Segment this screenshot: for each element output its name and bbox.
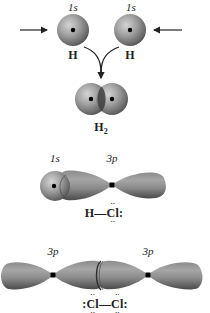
lone-pair-top: ··	[110, 201, 115, 208]
cl2-left-orbital-label: 3p	[48, 245, 59, 257]
nucleus-dot-icon	[52, 184, 56, 188]
orbital-diagram-canvas	[0, 0, 210, 313]
cl-left-nucleus-icon	[51, 273, 56, 278]
lone-pair-top: ··	[90, 292, 95, 299]
lone-pair-right: :	[124, 297, 128, 311]
lone-pair-top: ··	[115, 292, 120, 299]
hcl-cl-3p-right-lobe	[112, 172, 166, 198]
h-right-atom-label: H	[125, 48, 134, 63]
cl2-right-inner-lobe	[98, 261, 149, 290]
h2-formula-element: H	[94, 120, 104, 134]
h-left-orbital-label: 1s	[68, 1, 78, 13]
h2-formula-subscript: 2	[104, 127, 108, 136]
lewis-bond: —	[94, 206, 106, 220]
h-atom-left-orbital	[57, 14, 89, 46]
hcl-lewis-structure: H—··Cl··:	[85, 206, 123, 221]
lewis-cl: ··Cl··	[107, 206, 119, 221]
nucleus-dot-icon	[89, 97, 93, 101]
lewis-h: H	[85, 206, 95, 220]
cl2-right-orbital-label: 3p	[143, 245, 154, 257]
nucleus-dot-icon	[110, 97, 114, 101]
h2-formula-label: H2	[94, 120, 108, 136]
lone-pair-right: :	[119, 206, 123, 220]
cl2-lewis-structure: :··Cl··—··Cl··:	[82, 297, 127, 312]
nucleus-dot-icon	[71, 28, 75, 32]
hcl-formation-panel	[40, 171, 166, 201]
h2-molecule-orbital	[75, 83, 128, 115]
hcl-h-orbital-label: 1s	[50, 152, 60, 164]
lewis-cl-2: ··Cl··	[111, 297, 123, 312]
nucleus-dot-icon	[128, 28, 132, 32]
hcl-cl-orbital-label: 3p	[107, 152, 118, 164]
cl2-right-outer-lobe	[148, 262, 203, 289]
h-left-atom-label: H	[68, 48, 77, 63]
lone-pair-bottom: ··	[110, 219, 115, 226]
h-right-orbital-label: 1s	[126, 1, 136, 13]
cl-nucleus-icon	[110, 183, 115, 188]
converging-arrow-icon	[84, 47, 119, 78]
cl2-formation-panel	[1, 261, 203, 290]
h2-formation-panel	[20, 14, 182, 115]
cl-right-nucleus-icon	[146, 273, 151, 278]
h-atom-right-orbital	[114, 14, 146, 46]
cl2-left-outer-lobe	[1, 262, 53, 289]
lewis-cl-1: ··Cl··	[86, 297, 98, 312]
lewis-bond: —	[99, 297, 111, 311]
hcl-h-1s-orbital	[40, 171, 70, 201]
